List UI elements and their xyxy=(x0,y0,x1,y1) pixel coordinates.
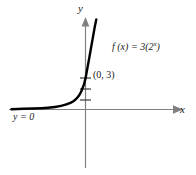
y-intercept-point-label: (0, 3) xyxy=(93,70,115,80)
exponential-function-graph: y x f (x) = 3(2x) (0, 3) y = 0 xyxy=(0,0,196,175)
function-equation-suffix: ) xyxy=(157,41,160,52)
y-axis-arrowhead xyxy=(82,17,90,27)
x-axis-label: x xyxy=(180,104,185,115)
asymptote-label: y = 0 xyxy=(13,112,34,122)
graph-canvas xyxy=(0,0,196,175)
exponential-curve xyxy=(12,20,97,110)
y-axis-label: y xyxy=(78,3,83,14)
function-equation-base: f (x) = 3(2 xyxy=(112,41,153,52)
function-equation-label: f (x) = 3(2x) xyxy=(112,41,160,52)
